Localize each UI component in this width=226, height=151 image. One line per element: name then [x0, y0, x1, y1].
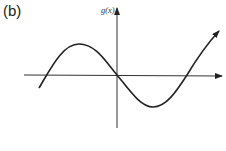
graph	[0, 0, 226, 151]
x-axis	[24, 75, 222, 76]
curve-g	[39, 31, 219, 107]
